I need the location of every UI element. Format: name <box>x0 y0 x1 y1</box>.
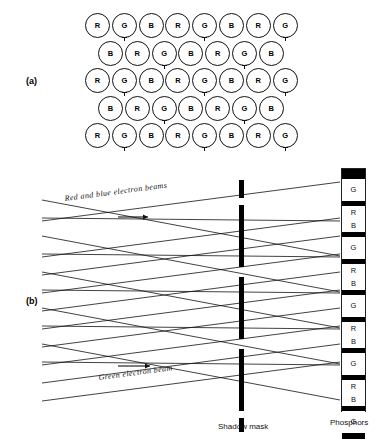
red-and-blue-electron-beams-ray <box>42 272 340 328</box>
phosphor-band-g: G <box>342 237 365 259</box>
phosphor-dot-b: B <box>219 68 244 93</box>
shadow-mask-bar <box>239 349 244 411</box>
phosphor-band-r: R <box>342 380 365 393</box>
phosphor-dot-g: G <box>273 68 298 93</box>
phosphor-dot-b: B <box>259 96 284 121</box>
green-electron-beam-ray <box>42 272 340 311</box>
phosphor-dot-r: R <box>165 123 190 148</box>
phosphor-dot-r: R <box>246 13 271 38</box>
shadow-mask-bar <box>239 180 244 198</box>
shadow-mask-bar <box>239 205 244 267</box>
dot-row: RGBRGBRG <box>85 13 300 40</box>
electron-beam-paths <box>0 160 384 446</box>
registration-cross-icon <box>283 147 288 151</box>
phosphor-dot-b: B <box>139 68 164 93</box>
green-electron-beam-ray <box>42 218 340 257</box>
dot-row: BRGBRGB <box>85 96 300 123</box>
phosphor-band-g: G <box>342 353 365 375</box>
phosphor-dot-triad-pattern: RGBRGBRGBRGBRGBRGBRGBRGBRGBRGBRGBRGBRG <box>85 13 300 151</box>
phosphor-dot-r: R <box>85 68 110 93</box>
green-electron-beam-ray <box>42 254 340 293</box>
phosphor-band-b: B <box>342 219 365 232</box>
phosphor-dot-r: R <box>205 41 230 66</box>
phosphor-dot-r: R <box>85 13 110 38</box>
registration-cross-icon <box>202 147 207 151</box>
phosphor-dot-g: G <box>192 123 217 148</box>
phosphor-dot-g: G <box>273 123 298 148</box>
phosphor-dot-g: G <box>192 13 217 38</box>
phosphor-strip: GRBGRBGRBGRBG <box>341 168 366 412</box>
green-electron-beam-ray <box>42 236 340 275</box>
phosphor-dot-g: G <box>112 123 137 148</box>
dot-row: RGBRGBRG <box>85 68 300 95</box>
red-and-blue-electron-beams-ray <box>42 308 340 364</box>
green-electron-beam-ray <box>42 182 340 221</box>
dot-row: BRGBRGB <box>85 41 300 68</box>
phosphor-dot-g: G <box>232 41 257 66</box>
phosphor-dot-r: R <box>246 68 271 93</box>
phosphor-dot-r: R <box>125 96 150 121</box>
red-and-blue-electron-beams-ray <box>42 200 340 256</box>
phosphor-band-r: R <box>342 264 365 277</box>
red-and-blue-electron-beams-ray <box>42 236 340 292</box>
phosphor-dot-r: R <box>165 13 190 38</box>
phosphor-dot-b: B <box>178 41 203 66</box>
phosphor-band-b: B <box>342 393 365 406</box>
phosphor-dot-g: G <box>152 96 177 121</box>
green-electron-beam-ray <box>42 362 340 401</box>
green-electron-beam-ray <box>42 326 340 365</box>
phosphor-dot-g: G <box>273 13 298 38</box>
phosphor-band-b: B <box>342 335 365 348</box>
phosphor-dot-r: R <box>205 96 230 121</box>
phosphor-dot-g: G <box>152 41 177 66</box>
phosphor-band-b: B <box>342 277 365 290</box>
phosphor-dot-g: G <box>112 68 137 93</box>
phosphor-band-r: R <box>342 322 365 335</box>
phosphor-dot-b: B <box>139 123 164 148</box>
phosphor-dot-b: B <box>219 13 244 38</box>
phosphor-dot-g: G <box>232 96 257 121</box>
phosphor-dot-r: R <box>125 41 150 66</box>
phosphor-dot-b: B <box>219 123 244 148</box>
green-electron-beam-ray <box>42 344 340 383</box>
green-electron-beam-ray <box>42 308 340 347</box>
phosphor-dot-r: R <box>85 123 110 148</box>
green-electron-beam-ray <box>42 290 340 329</box>
red-and-blue-electron-beams-ray <box>42 344 340 400</box>
dot-row: RGBRGBRG <box>85 123 300 150</box>
phosphor-separator <box>342 169 365 179</box>
shadow-mask-bar <box>239 277 244 339</box>
phosphor-band-r: R <box>342 206 365 219</box>
figure-root: (a) RGBRGBRGBRGBRGBRGBRGBRGBRGBRGBRGBRGB… <box>0 0 384 446</box>
phosphor-dot-b: B <box>98 96 123 121</box>
phosphor-band-g: G <box>342 295 365 317</box>
phosphor-dot-b: B <box>259 41 284 66</box>
phosphor-dot-g: G <box>112 13 137 38</box>
phosphor-dot-b: B <box>139 13 164 38</box>
phosphor-dot-r: R <box>165 68 190 93</box>
phosphor-dot-b: B <box>178 96 203 121</box>
red-and-blue-electron-beams-ray <box>42 218 340 221</box>
shadow-mask-caption: Shadow mask <box>218 422 268 431</box>
phosphors-caption: Phosphors <box>330 418 368 427</box>
phosphor-dot-b: B <box>98 41 123 66</box>
phosphor-dot-g: G <box>192 68 217 93</box>
phosphor-dot-r: R <box>246 123 271 148</box>
part-a-label: (a) <box>26 76 37 86</box>
shadow-mask-cross-section: GRBGRBGRBGRBG Red and blue electron beam… <box>0 160 384 446</box>
phosphor-band-g: G <box>342 179 365 201</box>
phosphor-separator <box>342 433 365 439</box>
registration-cross-icon <box>122 147 127 151</box>
